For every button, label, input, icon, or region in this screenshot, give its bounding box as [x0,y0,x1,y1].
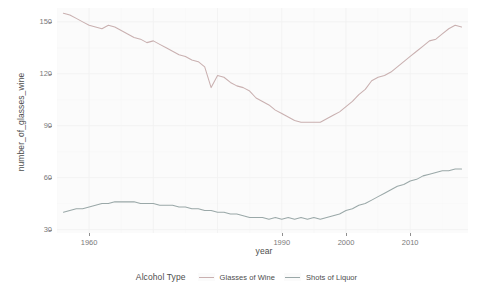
plot-lines [57,8,468,233]
legend-item-label: Shots of Liquor [306,273,357,282]
legend-line-swatch [198,273,215,281]
legend-title: Alcohol Type [136,272,186,282]
plot-panel [57,8,468,233]
x-tick-mark [282,233,283,236]
chart-figure: number_of_glasses_wine 306090120150 1960… [0,0,493,292]
x-tick-mark [346,233,347,236]
legend-item-1[interactable]: Shots of Liquor [284,273,357,282]
series-line-1 [63,169,461,219]
chart-legend: Alcohol Type Glasses of WineShots of Liq… [0,268,493,286]
x-axis-title: year [60,246,468,256]
x-tick-mark [410,233,411,236]
series-line-0 [63,13,461,122]
legend-item-0[interactable]: Glasses of Wine [198,273,275,282]
legend-item-label: Glasses of Wine [220,273,275,282]
legend-line-swatch [284,273,301,281]
x-tick-mark [89,233,90,236]
